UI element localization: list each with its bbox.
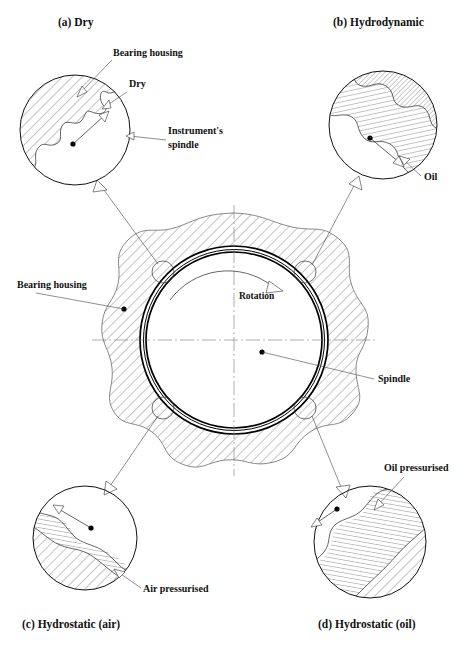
bearing-housing-top-label: Bearing housing [113, 47, 183, 58]
air-pressurised-label: Air pressurised [143, 583, 209, 594]
bearing-types-diagram: Rotation Spindle Bearing housing [0, 0, 471, 645]
oil-label: Oil [424, 171, 438, 182]
detail-c-labels: Air pressurised [114, 569, 209, 594]
spindle-label: Spindle [378, 373, 411, 384]
leader-arrow-a [93, 180, 107, 192]
detail-c-spindle-arrowhead [53, 505, 64, 514]
detail-circle-d[interactable] [305, 482, 432, 604]
instrument-spindle-line2: spindle [168, 139, 199, 150]
bearing-housing-main-label: Bearing housing [17, 279, 87, 290]
main-bearing-assembly: Rotation Spindle Bearing housing [17, 205, 411, 476]
detail-a-housing-hatch [12, 75, 130, 190]
dry-label: Dry [129, 78, 146, 89]
oil-pressurised-label: Oil pressurised [384, 462, 449, 473]
leader-main-to-d [312, 416, 343, 492]
leader-arrow-b [349, 176, 362, 190]
caption-d: (d) Hydrostatic (oil) [318, 618, 416, 631]
instrument-spindle-line1: Instrument's [168, 125, 223, 136]
detail-d-spindle-arrowhead [311, 518, 322, 527]
leader-main-to-c [108, 416, 158, 489]
caption-c: (c) Hydrostatic (air) [22, 618, 120, 631]
caption-a: (a) Dry [58, 16, 94, 29]
figure-root: Rotation Spindle Bearing housing [0, 0, 471, 645]
detail-circle-a[interactable] [12, 75, 130, 190]
dry-arrow [102, 100, 111, 109]
detail-circle-c[interactable] [20, 486, 140, 600]
rotation-label: Rotation [239, 291, 275, 301]
caption-b: (b) Hydrodynamic [333, 16, 424, 29]
instrument-spindle-leader [130, 136, 166, 140]
